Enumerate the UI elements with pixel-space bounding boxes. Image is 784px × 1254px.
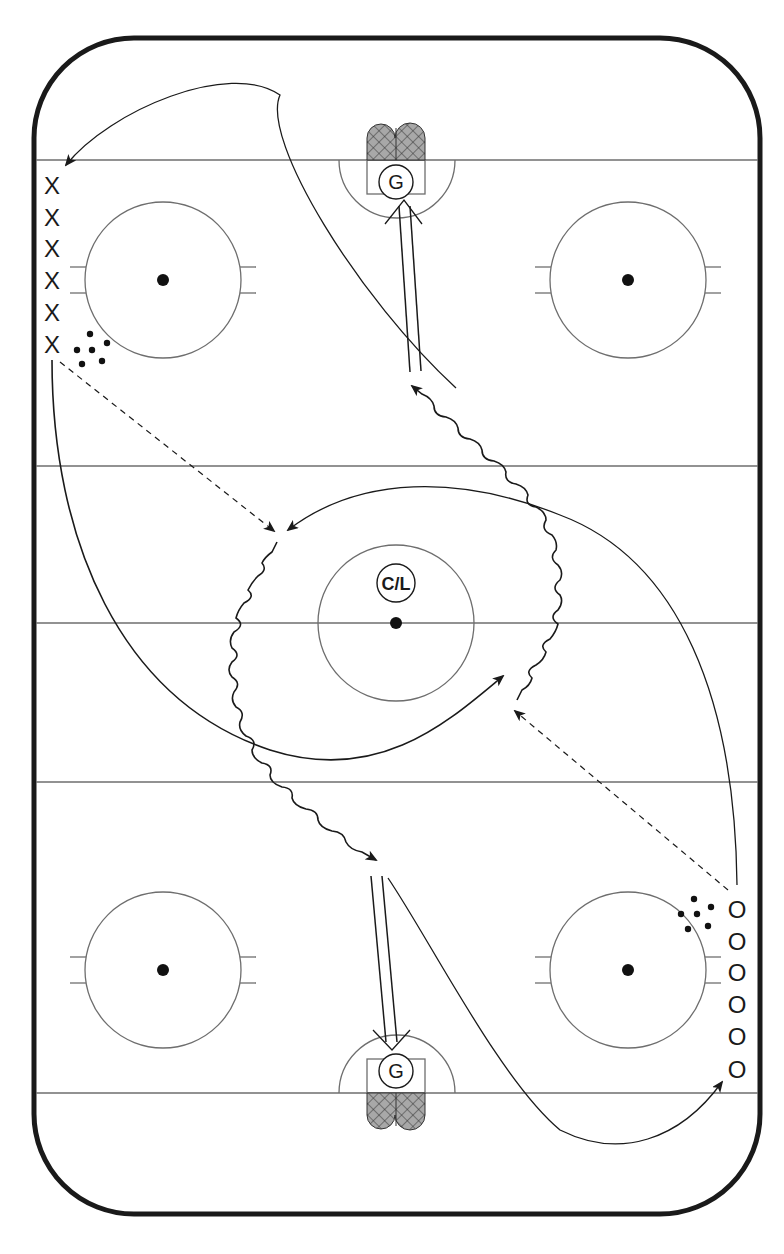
player-x: X (44, 331, 60, 358)
player-o: O (728, 928, 747, 955)
hockey-drill-diagram: G G C/L X X X X X X O O O O O O (0, 0, 784, 1254)
player-x: X (44, 172, 60, 199)
player-o: O (728, 896, 747, 923)
goalie-bottom: G (379, 1054, 413, 1088)
player-x: X (44, 299, 60, 326)
player-o: O (728, 959, 747, 986)
player-o: O (728, 1023, 747, 1050)
player-o: O (728, 1056, 747, 1083)
rink-svg: G G C/L X X X X X X O O O O O O (0, 0, 784, 1254)
player-x: X (44, 204, 60, 231)
player-x: X (44, 267, 60, 294)
goalie-bottom-label: G (388, 1060, 404, 1082)
goalie-top: G (379, 165, 413, 199)
player-x: X (44, 235, 60, 262)
goalie-top-label: G (388, 171, 404, 193)
player-o: O (728, 991, 747, 1018)
coach-label: C/L (382, 574, 411, 594)
coach-marker: C/L (377, 564, 415, 602)
